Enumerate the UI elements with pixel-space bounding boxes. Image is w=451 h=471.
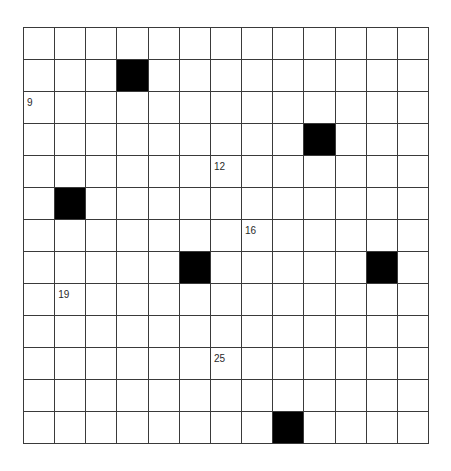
grid-cell[interactable] [273,124,304,156]
grid-cell[interactable] [117,316,148,348]
grid-cell[interactable] [273,156,304,188]
grid-cell[interactable] [149,92,180,124]
grid-cell[interactable] [273,188,304,220]
grid-cell[interactable] [86,316,117,348]
grid-cell[interactable] [211,284,242,316]
grid-cell[interactable] [180,92,211,124]
grid-cell[interactable] [180,156,211,188]
grid-cell[interactable] [55,156,86,188]
grid-cell[interactable] [273,284,304,316]
grid-cell[interactable] [336,380,367,412]
grid-cell[interactable] [398,60,429,92]
grid-cell[interactable] [242,60,273,92]
grid-cell[interactable] [24,284,55,316]
grid-cell[interactable] [149,28,180,60]
grid-cell[interactable] [242,252,273,284]
grid-cell[interactable] [180,380,211,412]
grid-cell[interactable] [24,252,55,284]
grid-cell[interactable] [367,92,398,124]
grid-cell[interactable] [398,220,429,252]
grid-cell[interactable] [117,252,148,284]
grid-cell[interactable] [304,316,335,348]
grid-cell[interactable] [336,124,367,156]
grid-cell[interactable] [242,124,273,156]
grid-cell[interactable] [211,188,242,220]
grid-cell[interactable] [273,92,304,124]
grid-cell[interactable] [117,220,148,252]
grid-cell[interactable] [55,60,86,92]
grid-cell[interactable] [304,28,335,60]
grid-cell[interactable] [149,156,180,188]
grid-cell[interactable] [149,412,180,444]
grid-cell[interactable] [211,252,242,284]
grid-cell[interactable] [86,124,117,156]
grid-cell[interactable] [211,92,242,124]
grid-cell[interactable] [242,28,273,60]
grid-cell[interactable] [180,348,211,380]
grid-cell[interactable] [86,284,117,316]
grid-cell[interactable] [273,348,304,380]
grid-cell[interactable] [336,188,367,220]
grid-cell[interactable] [304,92,335,124]
grid-cell[interactable] [117,124,148,156]
grid-cell[interactable] [304,220,335,252]
grid-cell[interactable] [86,60,117,92]
grid-cell[interactable] [336,156,367,188]
grid-cell[interactable] [117,380,148,412]
grid-cell[interactable] [242,92,273,124]
grid-cell[interactable] [211,60,242,92]
grid-cell[interactable] [242,156,273,188]
grid-cell[interactable] [304,156,335,188]
grid-cell[interactable] [86,220,117,252]
grid-cell[interactable] [367,28,398,60]
grid-cell[interactable] [336,412,367,444]
grid-cell[interactable] [180,28,211,60]
grid-cell[interactable] [273,380,304,412]
grid-cell[interactable] [242,284,273,316]
grid-cell[interactable] [149,316,180,348]
grid-cell[interactable] [55,380,86,412]
grid-cell[interactable] [273,252,304,284]
grid-cell[interactable] [242,348,273,380]
grid-cell[interactable] [55,252,86,284]
grid-cell[interactable] [211,412,242,444]
grid-cell[interactable] [55,92,86,124]
grid-cell[interactable] [336,92,367,124]
grid-cell[interactable] [149,284,180,316]
grid-cell[interactable] [117,92,148,124]
grid-cell[interactable] [149,252,180,284]
grid-cell[interactable] [86,380,117,412]
grid-cell[interactable] [55,348,86,380]
grid-cell[interactable] [398,124,429,156]
grid-cell[interactable] [55,412,86,444]
grid-cell[interactable] [211,316,242,348]
grid-cell[interactable] [398,380,429,412]
grid-cell[interactable] [86,188,117,220]
grid-cell[interactable] [304,188,335,220]
grid-cell[interactable] [24,188,55,220]
grid-cell[interactable] [180,284,211,316]
grid-cell[interactable] [211,220,242,252]
grid-cell[interactable] [367,220,398,252]
grid-cell[interactable] [242,316,273,348]
grid-cell[interactable] [24,156,55,188]
grid-cell[interactable] [304,284,335,316]
grid-cell[interactable] [367,156,398,188]
grid-cell[interactable] [24,124,55,156]
grid-cell[interactable] [86,348,117,380]
grid-cell[interactable] [336,284,367,316]
grid-cell[interactable] [149,220,180,252]
grid-cell[interactable] [180,316,211,348]
grid-cell[interactable] [398,252,429,284]
grid-cell[interactable] [273,316,304,348]
grid-cell[interactable] [304,380,335,412]
grid-cell[interactable] [336,220,367,252]
grid-cell[interactable]: 19 [55,284,86,316]
grid-cell[interactable] [398,92,429,124]
grid-cell[interactable] [367,124,398,156]
grid-cell[interactable] [24,28,55,60]
grid-cell[interactable] [86,412,117,444]
grid-cell[interactable] [86,156,117,188]
grid-cell[interactable] [117,28,148,60]
grid-cell[interactable] [336,28,367,60]
